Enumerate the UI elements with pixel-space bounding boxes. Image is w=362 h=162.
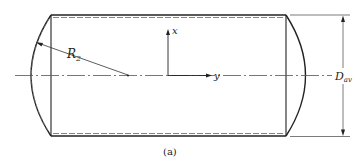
x-axis-label: x <box>172 25 178 36</box>
y-axis-arrowhead <box>206 74 212 78</box>
diameter-arrow-top <box>341 16 345 23</box>
diameter-label: Dav <box>334 70 352 84</box>
diameter-arrow-bottom <box>341 130 345 137</box>
radius-label: R2 <box>66 47 81 63</box>
figure-caption: (a) <box>163 146 177 157</box>
pressure-vessel-diagram: R2 x y Dav (a) <box>0 0 362 162</box>
center-point <box>127 75 129 77</box>
x-axis-arrowhead <box>166 29 170 35</box>
y-axis-label: y <box>213 70 220 81</box>
coordinate-axes <box>168 33 208 76</box>
radius-arrowhead <box>36 42 43 46</box>
